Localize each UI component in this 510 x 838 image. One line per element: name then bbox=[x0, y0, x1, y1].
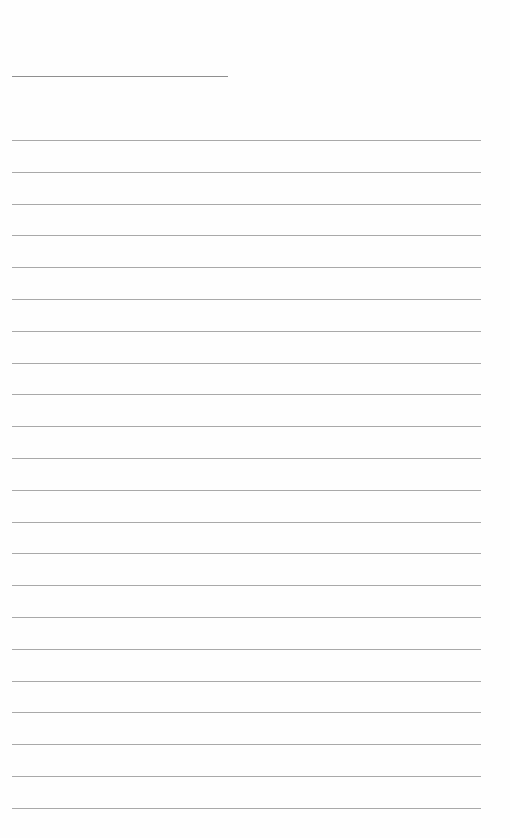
ruled-line bbox=[12, 712, 481, 713]
ruled-line bbox=[12, 140, 481, 141]
ruled-line bbox=[12, 331, 481, 332]
ruled-line bbox=[12, 172, 481, 173]
ruled-line bbox=[12, 363, 481, 364]
ruled-line bbox=[12, 649, 481, 650]
ruled-line bbox=[12, 204, 481, 205]
ruled-line bbox=[12, 299, 481, 300]
ruled-line bbox=[12, 490, 481, 491]
ruled-line bbox=[12, 458, 481, 459]
lined-page bbox=[0, 0, 510, 838]
ruled-line bbox=[12, 585, 481, 586]
ruled-line bbox=[12, 426, 481, 427]
ruled-line bbox=[12, 394, 481, 395]
ruled-line bbox=[12, 617, 481, 618]
ruled-line bbox=[12, 681, 481, 682]
header-short-line bbox=[12, 76, 228, 77]
ruled-line bbox=[12, 776, 481, 777]
ruled-line bbox=[12, 744, 481, 745]
ruled-line bbox=[12, 808, 481, 809]
ruled-line bbox=[12, 267, 481, 268]
ruled-line bbox=[12, 235, 481, 236]
ruled-line bbox=[12, 553, 481, 554]
ruled-line bbox=[12, 522, 481, 523]
